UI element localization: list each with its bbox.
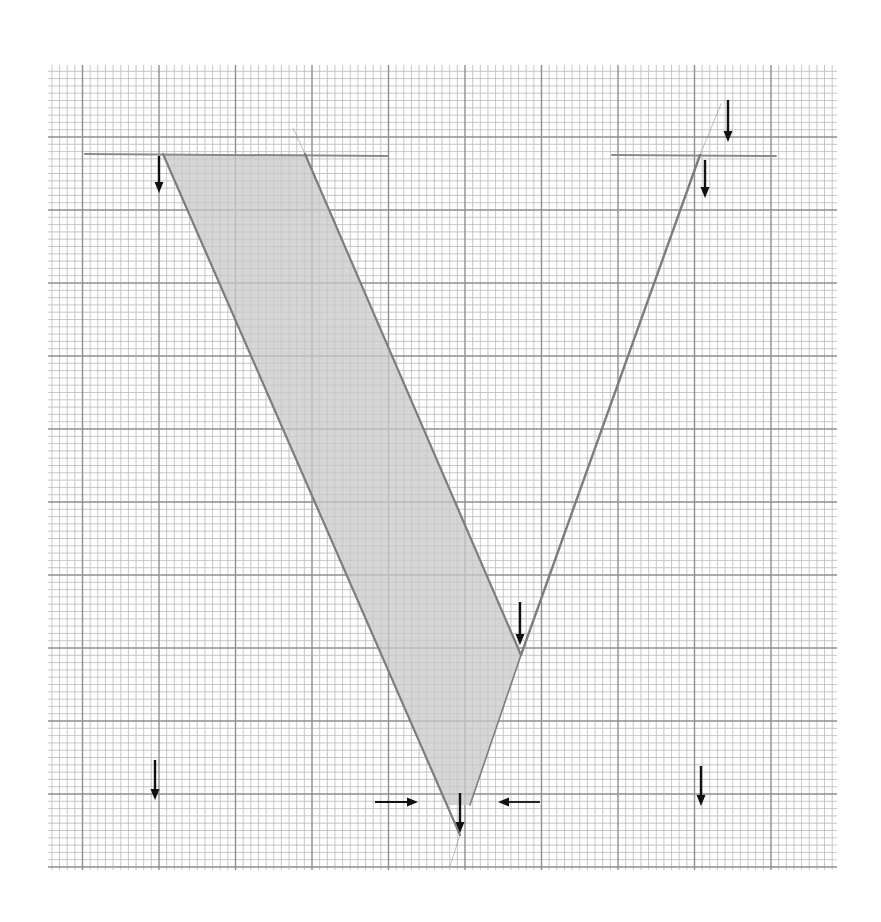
construction-bottom (450, 835, 460, 866)
arrow-top-left-down-icon (155, 156, 164, 193)
thick-stem-shading (163, 154, 521, 805)
cap-line-right (612, 155, 776, 156)
letter-v-construction (85, 104, 776, 866)
arrow-vertex-inner-down-icon (516, 602, 525, 645)
graph-paper-sheet (0, 0, 881, 922)
graph-paper-drawing (0, 0, 881, 922)
construction-top-left (293, 128, 305, 154)
